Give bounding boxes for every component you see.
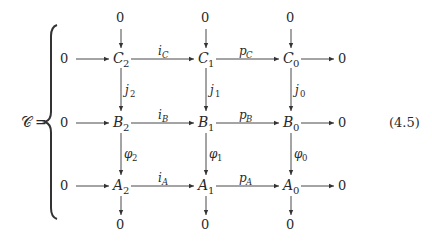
svg-text:j: j [292,83,299,97]
svg-text:1: 1 [208,122,214,133]
node-b1: B1 [197,114,214,133]
zero-right-row-b: 0 [338,115,346,130]
node-b0: B0 [282,114,299,133]
node-c2: C2 [113,50,129,69]
svg-text:1: 1 [208,185,214,196]
svg-text:2: 2 [130,89,135,99]
node-c0: C0 [283,50,299,69]
svg-text:2: 2 [123,185,129,196]
svg-text:0: 0 [302,153,307,163]
node-b2: B2 [112,114,129,133]
svg-text:A: A [245,177,252,187]
zero-left-row-a: 0 [60,178,68,193]
svg-text:0: 0 [293,122,299,133]
svg-text:1: 1 [217,153,222,163]
svg-text:j: j [122,83,129,97]
svg-text:2: 2 [132,153,137,163]
label-j1: j1 [207,83,220,99]
zero-left-row-c: 0 [60,51,68,66]
zero-bottom-col1: 0 [201,217,209,232]
label-phi0: φ0 [294,147,307,163]
svg-text:A: A [161,177,168,187]
zero-bottom-col2: 0 [116,217,124,232]
complex-symbol: 𝒞 [21,113,34,131]
svg-text:B: B [197,114,208,130]
label-i-c: iC [158,44,169,60]
label-i-a: iA [158,171,168,187]
svg-text:0: 0 [293,185,299,196]
left-brace [45,25,57,219]
svg-text:B: B [282,114,293,130]
svg-text:A: A [281,177,293,193]
svg-text:0: 0 [300,89,305,99]
svg-text:B: B [245,114,252,124]
label-p-c: pC [239,44,253,60]
node-a0: A0 [281,177,299,196]
svg-text:C: C [246,50,253,60]
svg-text:A: A [111,177,123,193]
svg-text:1: 1 [215,89,220,99]
node-a1: A1 [196,177,214,196]
label-p-b: pB [239,108,252,124]
svg-text:0: 0 [293,58,299,69]
node-a2: A2 [111,177,129,196]
equation-number: (4.5) [389,115,420,130]
label-i-b: iB [158,108,168,124]
label-j0: j0 [292,83,305,99]
zero-right-row-c: 0 [338,51,346,66]
label-p-a: pA [239,171,252,187]
svg-text:B: B [161,114,168,124]
zero-top-col1: 0 [201,10,209,25]
zero-left-row-b: 0 [60,115,68,130]
commutative-diagram: 𝒞 = 0 0 0 0 0 0 0 0 0 0 0 0 C2 C1 C0 B2 … [0,0,432,243]
zero-top-col2: 0 [116,10,124,25]
node-c1: C1 [198,50,214,69]
zero-top-col0: 0 [286,10,294,25]
svg-text:2: 2 [123,58,129,69]
svg-text:2: 2 [123,122,129,133]
zero-bottom-col0: 0 [286,217,294,232]
svg-text:A: A [196,177,208,193]
svg-text:1: 1 [208,58,214,69]
svg-text:B: B [112,114,123,130]
svg-text:j: j [207,83,214,97]
svg-text:C: C [162,50,169,60]
zero-right-row-a: 0 [338,178,346,193]
label-j2: j2 [122,83,135,99]
label-phi2: φ2 [124,147,137,163]
label-phi1: φ1 [209,147,222,163]
